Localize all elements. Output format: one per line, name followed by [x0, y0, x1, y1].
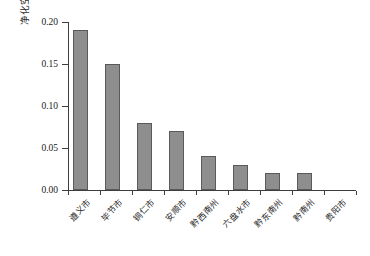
plot-area [68, 22, 356, 190]
x-axis-tick-mark [260, 191, 261, 195]
y-axis-tick-label: 0.15 [20, 59, 58, 69]
x-axis-tick-mark [292, 191, 293, 195]
y-axis-tick-label: 0.00 [20, 185, 58, 195]
bar [297, 173, 312, 190]
bar [201, 156, 216, 190]
y-axis-tick: 0.00 [0, 190, 370, 191]
x-axis-tick-mark [164, 191, 165, 195]
bar-chart: 净化空气价值变化/亿元 0.000.050.100.150.20 遵义市毕节市铜… [0, 0, 370, 256]
bar [169, 131, 184, 190]
bar [105, 64, 120, 190]
x-axis-tick-mark [68, 191, 69, 195]
x-axis-tick-mark [196, 191, 197, 195]
x-axis-tick-mark [356, 191, 357, 195]
y-axis-tick-label: 0.10 [20, 101, 58, 111]
x-axis-tick-mark [228, 191, 229, 195]
x-axis-tick-mark [132, 191, 133, 195]
y-axis-tick-label: 0.20 [20, 17, 58, 27]
y-axis-tick-label: 0.05 [20, 143, 58, 153]
x-axis-tick-mark [324, 191, 325, 195]
bar [137, 123, 152, 190]
bar [73, 30, 88, 190]
bar [265, 173, 280, 190]
bar [233, 165, 248, 190]
x-axis-tick-mark [100, 191, 101, 195]
